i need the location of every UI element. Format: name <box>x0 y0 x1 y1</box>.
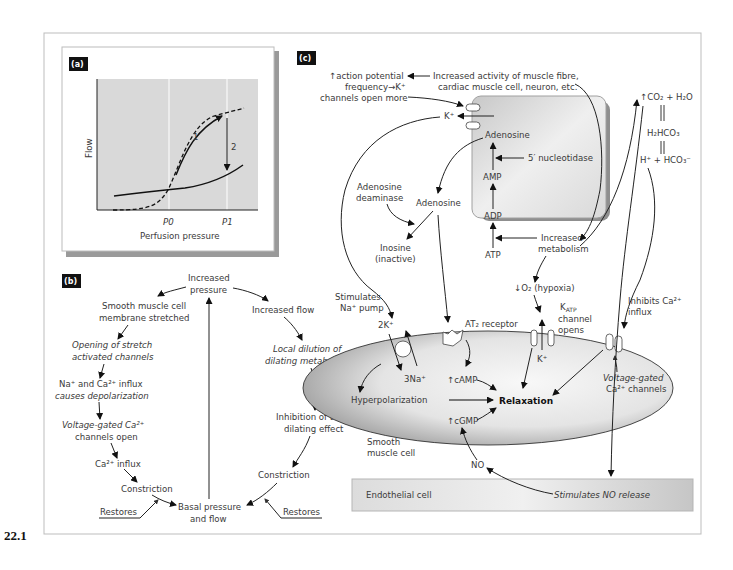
equilibrium-arrows-1 <box>661 105 664 121</box>
stimulates-na-pump-1: Stimulates <box>335 292 381 302</box>
hypoxia: ↓O₂ (hypoxia) <box>514 283 575 293</box>
y-axis-label: Flow <box>84 138 94 158</box>
five-prime-nucleotidase: 5′ nucleotidase <box>528 153 593 163</box>
tick-p1: P1 <box>222 217 233 227</box>
panel-a-label: (a) <box>71 60 84 69</box>
katp-opens: opens <box>558 325 584 335</box>
node-vg-ca-open-1: Voltage-gated Ca²⁺ <box>62 420 144 430</box>
katp-channel: channel <box>558 314 592 324</box>
vg-ca-channel-left <box>606 334 613 350</box>
inosine-1: Inosine <box>380 243 411 253</box>
node-vg-ca-open-2: channels open <box>75 432 138 442</box>
figure-number: 22.1 <box>4 528 27 543</box>
node-membrane-stretched-2: membrane stretched <box>99 313 190 323</box>
vg-ca-channels-2: Ca²⁺ channels <box>606 384 667 394</box>
adp: ADP <box>484 211 502 221</box>
x-axis-label: Perfusion pressure <box>140 231 220 241</box>
k-channel-top <box>466 104 480 111</box>
node-influx-1: Na⁺ and Ca²⁺ influx <box>59 379 143 389</box>
equilibrium-arrows-2 <box>661 141 664 154</box>
h-hco3: H⁺ + HCO₃⁻ <box>640 155 691 165</box>
restores-left-label: Restores <box>100 507 138 517</box>
node-inhibition-2: dilating effect <box>284 424 344 434</box>
katp-subscript: ATP <box>566 306 577 313</box>
amp: AMP <box>483 172 501 182</box>
k-plus-katp: K⁺ <box>537 354 547 364</box>
node-basal-1: Basal pressure <box>178 502 241 512</box>
node-increased-pressure-1: Increased <box>188 273 230 283</box>
tick-p0: P0 <box>163 217 174 227</box>
node-constriction-right: Constriction <box>258 470 310 480</box>
stimulates-na-pump-2: Na⁺ pump <box>340 303 384 313</box>
smooth-muscle-cell-label-2: muscle cell <box>367 448 415 458</box>
ap-frequency-3: channels open more <box>320 93 408 103</box>
adenosine-intracellular: Adenosine <box>485 130 530 140</box>
increased-metabolism-1: Increased <box>541 233 583 243</box>
panel-c: (c) Endothelial cell Stimulates NO relea… <box>297 51 693 511</box>
node-local-dilution-1: Local dilution of <box>273 344 343 354</box>
two-k-plus: 2K⁺ <box>378 320 394 330</box>
adenosine-extracellular: Adenosine <box>416 198 461 208</box>
panel-a: (a) 1 2 Flow P0 P1 Perfusion pressure <box>62 47 279 257</box>
cgmp: ↑cGMP <box>447 416 478 426</box>
restores-right-label: Restores <box>283 507 321 517</box>
node-ca-influx: Ca²⁺ influx <box>95 459 141 469</box>
inhibits-ca-1: Inhibits Ca²⁺ <box>628 296 681 306</box>
camp: ↑cAMP <box>447 375 477 385</box>
node-increased-flow: Increased flow <box>252 305 314 315</box>
hyperpolarization: Hyperpolarization <box>351 395 427 405</box>
panel-c-label: (c) <box>299 54 311 63</box>
node-influx-2: causes depolarization <box>55 391 149 401</box>
node-stretch-channels-2: activated channels <box>72 352 154 362</box>
node-increased-pressure-2: pressure <box>190 285 227 295</box>
increased-activity-1: Increased activity of muscle fibre, <box>433 71 579 81</box>
atp: ATP <box>485 250 501 260</box>
node-membrane-stretched-1: Smooth muscle cell <box>102 301 186 311</box>
co2-h2o: ↑CO₂ + H₂O <box>640 92 693 102</box>
inhibits-ca-2: influx <box>628 307 652 317</box>
vg-ca-channels-1: Voltage-gated <box>603 373 664 383</box>
katp-channel-right <box>548 330 554 346</box>
arrow-1-label: 1 <box>193 132 198 142</box>
stimulates-no-release: Stimulates NO release <box>554 490 650 500</box>
three-na-plus: 3Na⁺ <box>404 374 426 384</box>
smooth-muscle-cell-label-1: Smooth <box>367 437 400 447</box>
relaxation: Relaxation <box>499 396 553 406</box>
na-k-pump <box>395 341 411 357</box>
katp-channel-left <box>531 330 537 346</box>
ap-frequency-1: ↑action potential <box>329 71 404 81</box>
node-constriction-left: Constriction <box>121 484 173 494</box>
arrow-2-label: 2 <box>231 142 236 152</box>
panel-b-label: (b) <box>64 277 77 286</box>
no-label: NO <box>471 460 484 470</box>
node-stretch-channels-1: Opening of stretch <box>72 340 152 350</box>
adenosine-deaminase-1: Adenosine <box>357 182 402 192</box>
node-basal-2: and flow <box>190 514 227 524</box>
at2-receptor: AT₂ receptor <box>465 319 518 329</box>
figure-canvas: 22.1 (a) 1 2 Flow P0 P1 Perfusion pressu… <box>0 0 733 570</box>
adenosine-deaminase-2: deaminase <box>356 193 403 203</box>
katp-label-k: KATP <box>560 302 577 313</box>
h2hco3: H₂HCO₃ <box>647 128 680 138</box>
k-channel-bottom <box>466 122 480 129</box>
increased-activity-2: cardiac muscle cell, neuron, etc. <box>438 82 577 92</box>
endothelial-cell-label: Endothelial cell <box>366 490 432 500</box>
inosine-2: (inactive) <box>375 254 416 264</box>
k-plus-top: K⁺ <box>444 111 454 121</box>
ap-frequency-2: frequency→K⁺ <box>345 82 405 92</box>
